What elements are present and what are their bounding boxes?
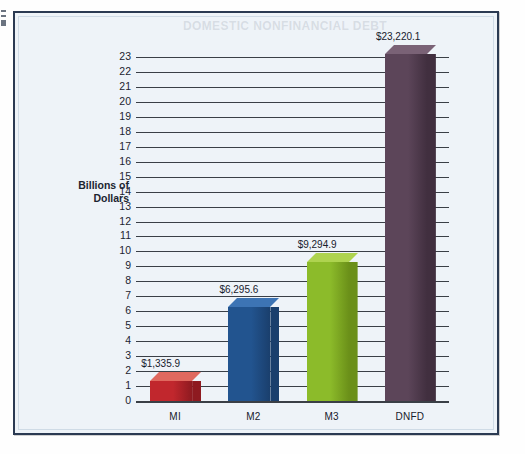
y-axis-tick-label: 14: [101, 185, 131, 197]
bar-MI[interactable]: $1,335.9: [150, 381, 192, 401]
x-axis-label-M2: M2: [223, 411, 283, 422]
bar-front-face: [150, 381, 192, 401]
bar-value-label: $6,295.6: [219, 284, 258, 295]
bar-top-face: [228, 298, 279, 307]
gridline: [136, 401, 449, 403]
y-axis-tick-label: 13: [101, 200, 131, 212]
x-axis-label-M3: M3: [302, 411, 362, 422]
y-axis-tick-label: 6: [101, 304, 131, 316]
y-axis-tick-label: 9: [101, 259, 131, 271]
bar-front-face: [307, 262, 349, 401]
y-axis-tick-label: 19: [101, 110, 131, 122]
y-axis-tick-label: 10: [101, 244, 131, 256]
bar-front-face: [385, 54, 427, 401]
x-axis-label-DNFD: DNFD: [380, 411, 440, 422]
y-axis-tick-label: 1: [101, 379, 131, 391]
bar-value-label: $23,220.1: [376, 31, 421, 42]
bar-top-face: [307, 253, 358, 262]
plot-area: Billions of Dollars 23222120191817161514…: [15, 13, 501, 437]
y-axis-tick-label: 2: [101, 364, 131, 376]
bar-M3[interactable]: $9,294.9: [307, 262, 349, 401]
y-axis-tick-label: 5: [101, 319, 131, 331]
y-axis-tick-label: 23: [101, 50, 131, 62]
bar-side-face: [192, 381, 201, 401]
y-axis-tick-label: 16: [101, 155, 131, 167]
y-axis-tick-label: 3: [101, 349, 131, 361]
y-axis-tick-label: 18: [101, 125, 131, 137]
bar-top-face: [385, 45, 436, 54]
chart-panel: DOMESTIC NONFINANCIAL DEBT Billions of D…: [13, 11, 499, 435]
bar-side-face: [270, 307, 279, 401]
bar-front-face: [228, 307, 270, 401]
bar-series: $1,335.9$6,295.6$9,294.9$23,220.1: [136, 57, 449, 401]
y-axis-tick-label: 0: [101, 394, 131, 406]
bar-value-label: $9,294.9: [298, 239, 337, 250]
y-axis-tick-label: 17: [101, 140, 131, 152]
x-axis-label-MI: MI: [145, 411, 205, 422]
y-axis-tick-label: 15: [101, 170, 131, 182]
y-axis-tick-label: 11: [101, 229, 131, 241]
y-axis-tick-label: 12: [101, 215, 131, 227]
bar-side-face: [427, 54, 436, 401]
bar-M2[interactable]: $6,295.6: [228, 307, 270, 401]
bar-DNFD[interactable]: $23,220.1: [385, 54, 427, 401]
chart-page: DOMESTIC NONFINANCIAL DEBT Billions of D…: [0, 0, 525, 454]
bar-value-label: $1,335.9: [141, 358, 180, 369]
y-axis-tick-label: 8: [101, 274, 131, 286]
y-axis-tick-label: 4: [101, 334, 131, 346]
y-axis-tick-label: 7: [101, 289, 131, 301]
bar-top-face: [150, 372, 201, 381]
y-axis-tick-label: 22: [101, 65, 131, 77]
scan-artifact: [1, 10, 6, 26]
y-axis-tick-label: 20: [101, 95, 131, 107]
y-axis-tick-label: 21: [101, 80, 131, 92]
bar-side-face: [349, 262, 358, 401]
